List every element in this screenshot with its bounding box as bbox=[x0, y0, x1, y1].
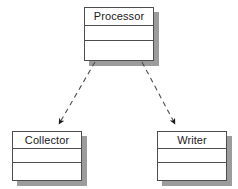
relationship-layer bbox=[0, 0, 238, 189]
uml-class-diagram: Processor Collector Writer bbox=[0, 0, 238, 189]
dependency-processor-writer bbox=[142, 62, 175, 124]
dependency-processor-collector bbox=[59, 62, 95, 124]
